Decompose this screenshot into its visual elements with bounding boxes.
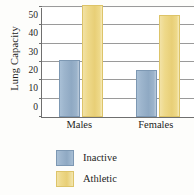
legend-item-athletic: Athletic	[56, 171, 117, 187]
bar-group-females	[136, 8, 180, 117]
bar-females-athletic	[159, 15, 180, 117]
legend-swatch-athletic	[56, 171, 74, 187]
y-tick-label-50: 50	[29, 11, 39, 21]
plot-area: 0102030405060	[41, 8, 194, 118]
legend-label-inactive: Inactive	[83, 153, 117, 164]
y-axis-title: Lung Capacity	[9, 4, 20, 114]
bar-group-males	[59, 8, 103, 117]
y-tick-label-0: 0	[33, 103, 38, 113]
bar-males-athletic	[82, 5, 103, 117]
y-tick-label-20: 20	[29, 66, 39, 76]
y-tick-label-30: 30	[29, 48, 39, 58]
lung-capacity-bar-chart: Lung Capacity 0102030405060 MalesFemales…	[0, 0, 194, 195]
gridline-60	[42, 6, 194, 7]
bar-females-inactive	[136, 70, 157, 117]
y-tick-label-40: 40	[29, 29, 39, 39]
y-tick-mark-60	[39, 6, 42, 7]
x-axis-ticks: MalesFemales	[41, 120, 194, 136]
x-tick-label-males: Males	[66, 120, 92, 131]
bar-males-inactive	[59, 60, 80, 117]
x-tick-label-females: Females	[138, 120, 173, 131]
bars-layer	[42, 8, 194, 117]
legend-label-athletic: Athletic	[83, 174, 117, 185]
chart-legend: InactiveAthletic	[56, 150, 117, 187]
legend-item-inactive: Inactive	[56, 150, 117, 166]
legend-swatch-inactive	[56, 150, 74, 166]
y-tick-label-10: 10	[29, 84, 39, 94]
y-tick-label-60: 60	[29, 0, 39, 2]
